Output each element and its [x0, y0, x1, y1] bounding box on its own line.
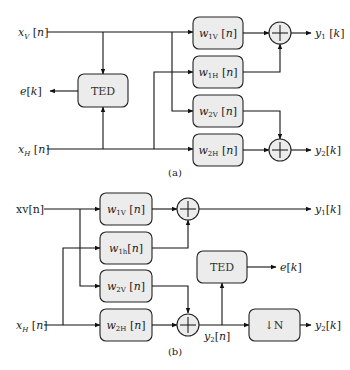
diagram-a: xV [n] xH [n] TED e[k] w1V [n] w1H [n] — [18, 17, 344, 178]
caption-b: (b) — [168, 346, 182, 357]
ted-label-a: TED — [91, 85, 115, 98]
filter-w1h-a: w1H [n] — [193, 56, 243, 88]
error-label-a: e[k] — [20, 85, 42, 98]
diagram-canvas: xV [n] xH [n] TED e[k] w1V [n] w1H [n] — [0, 0, 350, 370]
svg-text:w1V [n]: w1V [n] — [107, 203, 145, 217]
svg-text:w2H [n]: w2H [n] — [106, 319, 145, 333]
svg-text:w1V [n]: w1V [n] — [199, 27, 237, 41]
sum-node-1-b — [177, 198, 199, 220]
error-label-b: e[k] — [280, 261, 302, 274]
filter-w2h-a: w2H [n] — [193, 134, 243, 166]
svg-text:w2V [n]: w2V [n] — [199, 105, 237, 119]
svg-text:w2V [n]: w2V [n] — [107, 280, 145, 294]
w1h-to-sum1-line — [243, 44, 280, 72]
sum-node-1-a — [269, 22, 291, 44]
caption-a: (a) — [168, 167, 182, 178]
w1h-to-sum1-line-b — [152, 220, 188, 248]
input-xh-label-b: xH [n] — [16, 319, 48, 334]
input-xh-label-a: xH [n] — [18, 143, 50, 158]
output-y2-label-b: y2[k] — [314, 319, 341, 333]
ted-label-b: TED — [210, 261, 234, 274]
filter-w1v-b: w1V [n] — [100, 193, 152, 225]
diagram-b: xv[n] xH [n] w1V [n] w1h[n] w2V [n] w2H … — [16, 193, 341, 357]
output-y1-label-b: y1[k] — [314, 203, 341, 217]
downsample-label: ↓N — [265, 319, 284, 332]
input-xv-label-b: xv[n] — [16, 203, 44, 216]
input-xv-label-a: xV [n] — [18, 26, 48, 41]
w2v-to-sum2-line-b — [152, 286, 188, 313]
sum-node-2-b — [177, 314, 199, 336]
filter-w2v-b: w2V [n] — [100, 270, 152, 302]
filter-w1v-a: w1V [n] — [193, 17, 243, 49]
output-y2-label-a: y2[k] — [314, 144, 341, 158]
w2v-to-sum2-line — [243, 111, 280, 139]
intermediate-y2n-label: y2[n] — [203, 330, 230, 344]
sum-node-2-a — [269, 139, 291, 161]
output-y1-label-a: y1 [k] — [314, 27, 344, 41]
filter-w1h-b: w1h[n] — [100, 232, 152, 264]
svg-text:w1H [n]: w1H [n] — [198, 66, 237, 80]
svg-text:w2H [n]: w2H [n] — [198, 144, 237, 158]
filter-w2v-a: w2V [n] — [193, 95, 243, 127]
filter-w2h-b: w2H [n] — [100, 309, 152, 341]
